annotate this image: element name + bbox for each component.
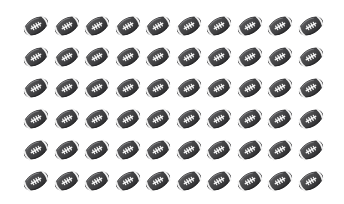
american-football-icon: American Football <box>52 166 82 196</box>
american-football-icon: American Football <box>235 42 265 72</box>
football-cell: American Football <box>143 11 173 41</box>
football-cell: American Football <box>113 166 143 196</box>
football-cell: American Football <box>235 166 265 196</box>
american-football-icon: American Football <box>52 73 82 103</box>
football-cell: American Football <box>265 104 295 134</box>
football-cell: American Football <box>82 135 112 165</box>
football-row-1: American FootballAmerican FootballAmeric… <box>0 11 344 42</box>
american-football-icon: American Football <box>21 166 51 196</box>
american-football-icon: American Football <box>296 73 326 103</box>
american-football-icon: American Football <box>21 104 51 134</box>
football-cell: American Football <box>204 11 234 41</box>
football-cell: American Football <box>296 73 326 103</box>
american-football-icon: American Football <box>113 73 143 103</box>
american-football-icon: American Football <box>265 42 295 72</box>
american-football-icon: American Football <box>235 104 265 134</box>
football-cell: American Football <box>82 104 112 134</box>
football-cell: American Football <box>265 135 295 165</box>
football-cell: American Football <box>21 42 51 72</box>
football-cell: American Football <box>143 42 173 72</box>
american-football-icon: American Football <box>113 11 143 41</box>
american-football-icon: American Football <box>82 166 112 196</box>
american-football-icon: American Football <box>235 11 265 41</box>
american-football-icon: American Football <box>21 42 51 72</box>
american-football-icon: American Football <box>174 135 204 165</box>
football-cell: American Football <box>21 73 51 103</box>
american-football-icon: American Football <box>143 73 173 103</box>
football-cell: American Football <box>204 104 234 134</box>
american-football-icon: American Football <box>265 11 295 41</box>
american-football-icon: American Football <box>265 73 295 103</box>
american-football-icon: American Football <box>204 73 234 103</box>
american-football-icon: American Football <box>21 73 51 103</box>
american-football-icon: American Football <box>265 135 295 165</box>
american-football-icon: American Football <box>52 135 82 165</box>
football-cell: American Football <box>143 73 173 103</box>
football-cell: American Football <box>82 73 112 103</box>
football-cell: American Football <box>204 42 234 72</box>
football-cell: American Football <box>296 135 326 165</box>
american-football-icon: American Football <box>52 104 82 134</box>
football-cell: American Football <box>143 135 173 165</box>
american-football-icon: American Football <box>265 104 295 134</box>
football-icon-grid: American FootballAmerican FootballAmeric… <box>0 0 344 204</box>
american-football-icon: American Football <box>82 42 112 72</box>
football-cell: American Football <box>82 166 112 196</box>
american-football-icon: American Football <box>52 42 82 72</box>
american-football-icon: American Football <box>296 166 326 196</box>
football-cell: American Football <box>52 11 82 41</box>
football-cell: American Football <box>21 104 51 134</box>
football-cell: American Football <box>52 135 82 165</box>
football-cell: American Football <box>113 73 143 103</box>
football-cell: American Football <box>204 135 234 165</box>
football-cell: American Football <box>174 166 204 196</box>
american-football-icon: American Football <box>174 11 204 41</box>
football-cell: American Football <box>174 104 204 134</box>
football-row-3: American FootballAmerican FootballAmeric… <box>0 73 344 104</box>
american-football-icon: American Football <box>82 11 112 41</box>
american-football-icon: American Football <box>143 135 173 165</box>
american-football-icon: American Football <box>52 11 82 41</box>
football-cell: American Football <box>235 135 265 165</box>
american-football-icon: American Football <box>113 166 143 196</box>
football-cell: American Football <box>82 42 112 72</box>
american-football-icon: American Football <box>143 166 173 196</box>
football-cell: American Football <box>143 104 173 134</box>
american-football-icon: American Football <box>296 104 326 134</box>
football-cell: American Football <box>235 73 265 103</box>
american-football-icon: American Football <box>235 135 265 165</box>
football-cell: American Football <box>296 42 326 72</box>
football-cell: American Football <box>52 104 82 134</box>
american-football-icon: American Football <box>174 104 204 134</box>
football-cell: American Football <box>296 11 326 41</box>
football-cell: American Football <box>113 11 143 41</box>
football-cell: American Football <box>174 11 204 41</box>
football-row-4: American FootballAmerican FootballAmeric… <box>0 104 344 135</box>
football-cell: American Football <box>235 104 265 134</box>
american-football-icon: American Football <box>113 104 143 134</box>
football-cell: American Football <box>21 166 51 196</box>
american-football-icon: American Football <box>21 135 51 165</box>
football-cell: American Football <box>174 135 204 165</box>
football-cell: American Football <box>265 166 295 196</box>
football-cell: American Football <box>265 42 295 72</box>
american-football-icon: American Football <box>143 42 173 72</box>
american-football-icon: American Football <box>296 42 326 72</box>
football-cell: American Football <box>52 42 82 72</box>
american-football-icon: American Football <box>174 73 204 103</box>
american-football-icon: American Football <box>296 135 326 165</box>
football-cell: American Football <box>52 73 82 103</box>
football-cell: American Football <box>113 104 143 134</box>
american-football-icon: American Football <box>21 11 51 41</box>
football-cell: American Football <box>265 73 295 103</box>
football-row-5: American FootballAmerican FootballAmeric… <box>0 135 344 166</box>
american-football-icon: American Football <box>174 166 204 196</box>
football-cell: American Football <box>174 42 204 72</box>
american-football-icon: American Football <box>113 42 143 72</box>
american-football-icon: American Football <box>235 73 265 103</box>
football-cell: American Football <box>143 166 173 196</box>
football-cell: American Football <box>235 42 265 72</box>
football-row-6: American FootballAmerican FootballAmeric… <box>0 166 344 197</box>
american-football-icon: American Football <box>204 104 234 134</box>
american-football-icon: American Football <box>113 135 143 165</box>
